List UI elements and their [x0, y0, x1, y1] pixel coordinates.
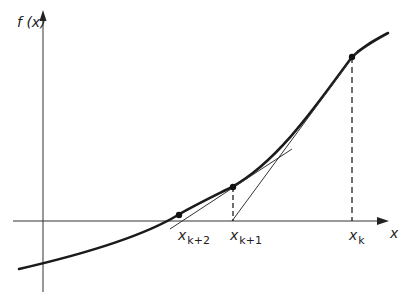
label-xk2-sub: k+2 [187, 234, 210, 247]
point-xk1 [230, 184, 236, 190]
label-xk: xk [349, 228, 365, 242]
diagram-canvas [0, 0, 400, 300]
label-xk-base: x [349, 227, 357, 243]
label-xk1-base: x [230, 227, 238, 243]
label-xk1-sub: k+1 [239, 234, 262, 247]
label-xk2-base: x [178, 227, 186, 243]
newton-method-diagram: f (x) x xk+2 xk+1 xk [0, 0, 400, 300]
point-xk2 [176, 212, 182, 218]
x-axis-arrow-icon [377, 217, 389, 225]
label-xk2: xk+2 [178, 228, 210, 242]
tangent-at-xk [232, 50, 358, 221]
label-xk1: xk+1 [230, 228, 262, 242]
label-xk-sub: k [358, 234, 364, 247]
y-axis-label: f (x) [17, 15, 46, 29]
point-xk [349, 54, 355, 60]
x-axis-label: x [390, 226, 398, 240]
